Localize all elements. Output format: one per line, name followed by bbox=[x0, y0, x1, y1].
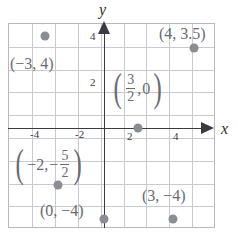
gridline-h bbox=[9, 115, 214, 116]
fraction-five-halves: 5 2 bbox=[60, 149, 69, 181]
fraction-numerator: 3 bbox=[127, 73, 134, 87]
fraction-numerator: 5 bbox=[61, 149, 68, 163]
y-tick-label-2: 2 bbox=[90, 77, 96, 88]
x-tick-label-2: 2 bbox=[127, 131, 133, 142]
point-label-neg3-4: (−3, 4) bbox=[10, 56, 54, 72]
plot-point bbox=[168, 215, 177, 224]
gridline-h bbox=[9, 47, 214, 48]
open-paren: ( bbox=[114, 74, 122, 103]
x-tick-label-neg4: -4 bbox=[30, 129, 39, 140]
plot-point bbox=[100, 215, 109, 224]
point-label-0-neg4: (0, −4) bbox=[40, 203, 84, 219]
close-paren: ) bbox=[74, 150, 82, 179]
label-minus-sign: − bbox=[49, 157, 58, 173]
gridline-v bbox=[192, 24, 193, 227]
x-axis-arrow-icon bbox=[201, 122, 214, 134]
point-label-3-neg4: (3, −4) bbox=[142, 188, 186, 204]
plot-point bbox=[41, 32, 50, 41]
point-label-neg2-neg-five-halves: ( −2, − 5 2 ) bbox=[13, 149, 85, 181]
x-tick-label-4: 4 bbox=[173, 131, 179, 142]
gridline-h bbox=[9, 138, 214, 139]
fraction-denominator: 2 bbox=[127, 90, 134, 104]
y-tick-label-4: 4 bbox=[90, 31, 96, 42]
fraction-three-halves: 3 2 bbox=[126, 73, 135, 105]
y-axis-label: y bbox=[99, 2, 106, 18]
label-second-coordinate: 0 bbox=[142, 81, 150, 97]
label-first-coordinate: −2, bbox=[27, 157, 48, 173]
gridline-v bbox=[101, 24, 102, 227]
point-label-three-halves-0: ( 3 2 , 0 ) bbox=[111, 73, 165, 105]
x-axis-label: x bbox=[221, 121, 228, 137]
gridline-h bbox=[9, 184, 214, 185]
point-label-4-3point5: (4, 3.5) bbox=[159, 26, 206, 42]
close-paren: ) bbox=[154, 74, 162, 103]
plot-point bbox=[134, 124, 143, 133]
coordinate-plane-figure: x y -4 -2 2 4 2 4 (−3, 4) (4, 3.5) (0, −… bbox=[0, 0, 238, 243]
gridline-v bbox=[55, 24, 56, 227]
plot-point bbox=[54, 181, 63, 190]
open-paren: ( bbox=[16, 150, 24, 179]
y-axis-line bbox=[104, 33, 106, 228]
gridline-v bbox=[78, 24, 79, 227]
y-axis-arrow-icon bbox=[98, 21, 110, 34]
plot-point bbox=[190, 43, 199, 52]
x-tick-label-neg2: -2 bbox=[75, 129, 84, 140]
label-separator: , bbox=[137, 81, 141, 97]
gridline-v bbox=[124, 24, 125, 227]
fraction-denominator: 2 bbox=[61, 166, 68, 180]
